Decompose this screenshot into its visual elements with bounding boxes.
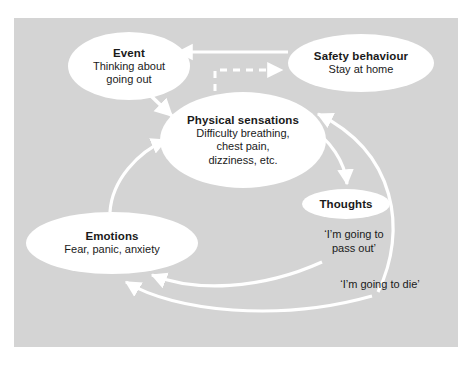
node-physical-sensations-body-line-3: dizziness, etc. bbox=[208, 154, 277, 168]
node-emotions-body-line-1: Fear, panic, anxiety bbox=[64, 243, 159, 257]
connector-thoughts-to-emotions bbox=[152, 262, 322, 286]
node-event-body-line-1: Thinking about bbox=[93, 60, 165, 74]
node-event[interactable]: Event Thinking about going out bbox=[68, 32, 190, 100]
connector-emotions-to-physical bbox=[110, 140, 166, 212]
node-physical-sensations-title: Physical sensations bbox=[187, 113, 299, 127]
node-physical-sensations-body-line-1: Difficulty breathing, bbox=[196, 127, 289, 141]
node-emotions-title: Emotions bbox=[85, 229, 138, 243]
thought-text-pass-out-line-2: pass out’ bbox=[308, 242, 400, 256]
node-safety-behaviour-title: Safety behaviour bbox=[314, 49, 408, 63]
node-event-title: Event bbox=[113, 46, 145, 60]
connector-event-to-physical bbox=[150, 95, 172, 116]
node-thoughts-title: Thoughts bbox=[319, 197, 372, 211]
node-event-body-line-2: going out bbox=[106, 73, 151, 87]
diagram-canvas: Event Thinking about going out Safety be… bbox=[0, 0, 472, 370]
node-emotions[interactable]: Emotions Fear, panic, anxiety bbox=[26, 212, 198, 274]
thought-text-pass-out-line-1: ‘I’m going to bbox=[308, 228, 400, 242]
node-physical-sensations[interactable]: Physical sensations Difficulty breathing… bbox=[160, 92, 326, 188]
thought-text-die-line-1: ‘I’m going to die’ bbox=[318, 278, 442, 292]
connector-physical-to-safety bbox=[215, 70, 281, 91]
node-safety-behaviour-body-line-1: Stay at home bbox=[329, 63, 394, 77]
node-safety-behaviour[interactable]: Safety behaviour Stay at home bbox=[288, 34, 434, 92]
node-thoughts[interactable]: Thoughts bbox=[302, 189, 390, 219]
node-physical-sensations-body-line-2: chest pain, bbox=[216, 140, 269, 154]
thought-text-die: ‘I’m going to die’ bbox=[318, 278, 442, 292]
thought-text-pass-out: ‘I’m going to pass out’ bbox=[308, 228, 400, 255]
